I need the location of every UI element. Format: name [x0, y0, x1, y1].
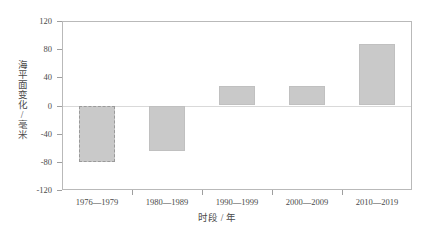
- y-axis-tick: [57, 190, 62, 191]
- bar-chart: 12080400-40-80-120 1976—19791980—1989199…: [0, 0, 434, 240]
- x-axis-tick: [132, 190, 133, 195]
- y-axis-tick-label: -80: [18, 157, 52, 167]
- y-axis-tick-label: -120: [18, 185, 52, 195]
- y-axis-tick-label: 120: [18, 16, 52, 26]
- y-axis-tick-label: 80: [18, 44, 52, 54]
- x-axis-tick: [342, 190, 343, 195]
- x-axis-title: 时段 / 年: [0, 210, 434, 224]
- x-axis: 1976—19791980—19891990—19992000—20092010…: [62, 21, 412, 190]
- x-axis-tick: [272, 190, 273, 195]
- y-axis-title: 海平面变化/毫米: [14, 60, 28, 140]
- x-axis-tick: [202, 190, 203, 195]
- x-axis-tick-label: 2010—2019: [332, 197, 422, 207]
